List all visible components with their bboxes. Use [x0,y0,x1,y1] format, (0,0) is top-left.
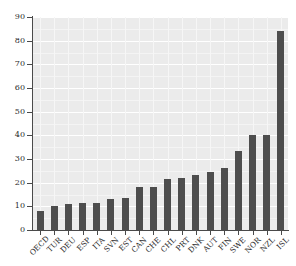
bar-chart: 0102030405060708090 OECDTURDEUESPITASVNE… [0,0,296,266]
x-axis-tick-labels: OECDTURDEUESPITASVNESTCANCHECHLPRTDNKAUT… [0,0,296,266]
